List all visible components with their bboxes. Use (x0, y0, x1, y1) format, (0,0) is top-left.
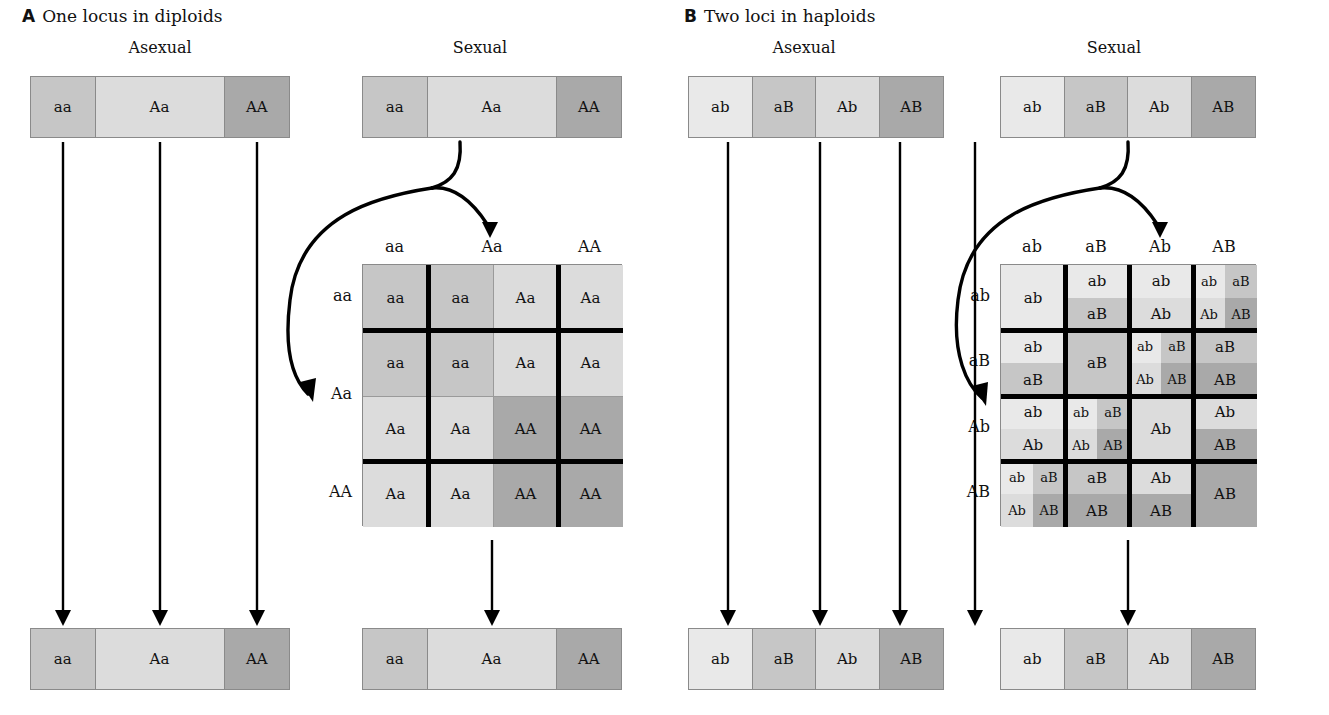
panel-b-asexual-bottom-bar-segment-ab: ab (689, 629, 753, 689)
punnett-subcell-label: AB (1040, 503, 1059, 518)
panel-b-sexual-top-bar-segment-label: Ab (1149, 98, 1169, 116)
punnett-cell: Aa (363, 396, 428, 462)
punnett-subcell: Ab (1129, 462, 1193, 495)
panel-a-sexual-top-bar: aaAaAA (362, 76, 622, 138)
panel-a-asexual-bottom-bar-segment-Aa: Aa (96, 629, 225, 689)
panel-b-punnett-square: ababaBabAbabaBAbABabaBaBabaBAbABaBABabAb… (1000, 264, 1256, 526)
punnett-subcell-label: AB (1214, 436, 1236, 454)
punnett-subcell-label: Ab (1023, 436, 1043, 454)
punnett-subcell: aB (1065, 298, 1129, 331)
punnett-subcell: AB (1097, 429, 1129, 462)
punnett-subcell-label: Ab (1008, 503, 1026, 518)
punnett-col-header: aB (1064, 237, 1128, 256)
grid-thick-line (363, 328, 623, 333)
punnett-cell-label: aa (363, 265, 428, 331)
panel-a-asexual-bottom-bar-segment-label: Aa (150, 650, 170, 668)
punnett-subcell: ab (1001, 265, 1065, 331)
punnett-subcell-label: aB (1087, 305, 1107, 323)
panel-b-sexual-top-bar-segment-AB: AB (1192, 77, 1256, 137)
panel-b-asexual-bottom-bar-segment-label: aB (774, 650, 794, 668)
punnett-subcell-label: Ab (1200, 307, 1218, 322)
panel-b-sexual-heading: Sexual (1014, 38, 1214, 57)
punnett-subcell-label: AB (1104, 438, 1123, 453)
panel-a-asexual-heading: Asexual (60, 38, 260, 57)
punnett-subcell-label: Ab (1215, 403, 1235, 421)
punnett-subcell: Ab (1193, 396, 1257, 429)
punnett-cell: Aa (428, 396, 493, 462)
punnett-subcell-label: AB (1168, 372, 1187, 387)
panel-a-sexual-heading: Sexual (380, 38, 580, 57)
panel-b-sexual-bottom-bar-segment-aB: aB (1065, 629, 1129, 689)
punnett-cell: AbAB (1129, 462, 1193, 528)
punnett-subcell: aB (1065, 462, 1129, 495)
panel-b-asexual-top-bar-segment-label: Ab (837, 98, 857, 116)
panel-b-sexual-bottom-bar-segment-label: ab (1023, 650, 1042, 668)
punnett-subcell: AB (1193, 429, 1257, 462)
panel-a-punnett-square: aaaaAaAaaaaaAaAaAaAaAAAAAaAaAAAA aaAaAAa… (362, 264, 622, 526)
punnett-subcell-label: aB (1023, 371, 1043, 389)
punnett-cell: abAb (1129, 265, 1193, 331)
punnett-subcell: AB (1193, 462, 1257, 528)
panel-b-sexual-bottom-bar-segment-label: aB (1086, 650, 1106, 668)
punnett-cell: Aa (558, 331, 623, 397)
punnett-subcell-label: AB (1150, 502, 1172, 520)
panel-a-title-text: One locus in diploids (42, 6, 222, 26)
panel-b-sexual-bottom-bar-segment-AB: AB (1192, 629, 1256, 689)
punnett-subcell: AB (1065, 494, 1129, 527)
punnett-subcell: Ab (1001, 494, 1033, 527)
punnett-cell: abaB (1065, 265, 1129, 331)
punnett-subcell-label: AB (1232, 307, 1251, 322)
punnett-subcell-label: aB (1087, 469, 1107, 487)
punnett-subcell-label: Ab (1151, 305, 1171, 323)
punnett-row-header: aB (944, 351, 990, 370)
punnett-subcell-label: ab (1024, 403, 1043, 421)
panel-b-asexual-top-bar-segment-label: AB (900, 98, 922, 116)
panel-a-asexual-top-bar-segment-aa: aa (31, 77, 96, 137)
punnett-cell-label: Aa (363, 396, 428, 462)
panel-b-asexual-top-bar-segment-Ab: Ab (816, 77, 880, 137)
punnett-cell-label: AA (493, 396, 558, 462)
punnett-row-header: AB (944, 482, 990, 501)
punnett-cell-label: aa (428, 265, 493, 331)
punnett-subcell-label: AB (1086, 502, 1108, 520)
grid-thick-line (556, 265, 561, 527)
grid-thick-line (1001, 459, 1257, 464)
panel-a-sexual-top-bar-segment-label: aa (386, 98, 404, 116)
grid-thick-line (1127, 265, 1132, 527)
panel-b-sexual-bottom-bar: abaBAbAB (1000, 628, 1256, 690)
punnett-subcell-label: AB (1214, 371, 1236, 389)
punnett-cell: ab (1001, 265, 1065, 331)
punnett-subcell: Ab (1065, 429, 1097, 462)
punnett-subcell: AB (1033, 494, 1065, 527)
panel-b-asexual-bottom-bar-segment-Ab: Ab (816, 629, 880, 689)
punnett-subcell-label: ab (1201, 274, 1217, 289)
punnett-subcell-label: aB (1232, 274, 1249, 289)
panel-a-asexual-bottom-bar-segment-label: AA (246, 650, 268, 668)
punnett-cell: aB (1065, 331, 1129, 397)
panel-b-title-text: Two loci in haploids (704, 6, 875, 26)
punnett-cell: abaBAbAB (1001, 462, 1065, 528)
punnett-subcell-label: ab (1088, 272, 1107, 290)
punnett-cell: abaBAbAB (1193, 265, 1257, 331)
punnett-subcell-label: ab (1009, 470, 1025, 485)
panel-a-asexual-top-bar-segment-label: aa (54, 98, 72, 116)
punnett-cell: Aa (428, 462, 493, 528)
panel-a-asexual-top-bar-segment-label: AA (246, 98, 268, 116)
punnett-subcell-label: ab (1024, 338, 1043, 356)
punnett-cell-label: aa (363, 331, 428, 397)
punnett-subcell-label: Ab (1072, 438, 1090, 453)
panel-b-sexual-bottom-bar-segment-Ab: Ab (1128, 629, 1192, 689)
panel-a-sexual-top-bar-segment-label: AA (578, 98, 600, 116)
grid-thick-line (363, 459, 623, 464)
punnett-subcell-label: aB (1168, 339, 1185, 354)
panel-a-sexual-bottom-bar-segment-Aa: Aa (428, 629, 557, 689)
punnett-subcell: AB (1193, 363, 1257, 396)
panel-b-asexual-top-bar-segment-label: ab (711, 98, 730, 116)
panel-b-sexual-bottom-bar-segment-label: Ab (1149, 650, 1169, 668)
punnett-cell-label: Aa (428, 396, 493, 462)
panel-b-asexual-heading: Asexual (704, 38, 904, 57)
panel-b-sexual-top-bar-segment-Ab: Ab (1128, 77, 1192, 137)
punnett-cell: aa (428, 331, 493, 397)
panel-b-letter: B (684, 6, 697, 26)
panel-a-asexual-bottom-bar-segment-aa: aa (31, 629, 96, 689)
